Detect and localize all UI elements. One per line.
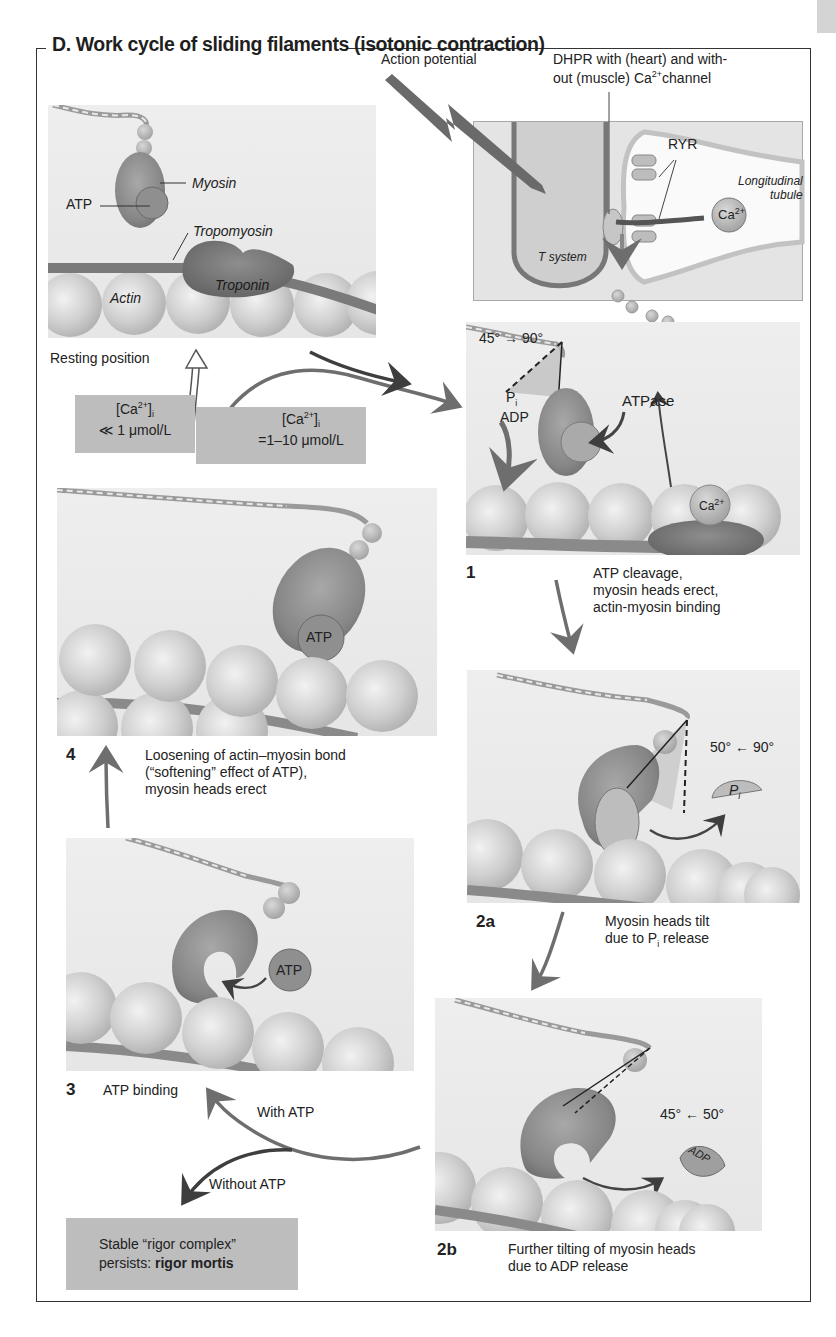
label-angle-1: 45° → 90° (479, 330, 543, 347)
label-without-atp: Without ATP (209, 1176, 286, 1193)
step-number-3: 3 (66, 1080, 75, 1100)
step4-illustration (57, 488, 437, 736)
caption-4-line3: myosin heads erect (145, 781, 346, 798)
rigor-line2: persists: rigor mortis (99, 1254, 298, 1273)
caption-1-line2: myosin heads erect, (593, 582, 721, 599)
caption-2b-line1: Further tilting of myosin heads (508, 1241, 696, 1258)
ca1-text: Ca (699, 499, 714, 513)
step-number-1: 1 (466, 563, 475, 583)
calcium-low-box: [Ca2+]i ≪ 1 μmol/L (75, 395, 195, 453)
step-number-2b: 2b (437, 1240, 457, 1260)
rigor-line2-bold: rigor mortis (155, 1255, 234, 1271)
panel-step-2a: 50° ← 90° Pi (467, 670, 800, 903)
label-adp-1: ADP (500, 409, 529, 426)
caption-step-2b: Further tilting of myosin heads due to A… (508, 1241, 696, 1275)
hollow-arrow-up-icon (186, 350, 207, 368)
caption-4-line2: (“softening” effect of ATP), (145, 764, 346, 781)
label-pi-1: Pi (506, 389, 517, 409)
cal-low-text: [Ca (116, 401, 138, 417)
actin-filament-step3 (66, 972, 394, 1071)
rigor-text: Stable “rigor complex” persists: rigor m… (66, 1218, 298, 1273)
label-angle-2b: 45° ← 50° (660, 1106, 724, 1123)
label-atp-3: ATP (276, 962, 302, 979)
panel-step-3: ATP (66, 838, 414, 1071)
cap2a-text-b: release (659, 930, 709, 946)
label-pi-2a: Pi (729, 782, 740, 802)
arrow-2a-to-2b (535, 912, 563, 985)
caption-1-line1: ATP cleavage, (593, 565, 721, 582)
cal-high-sup: 2+ (304, 410, 314, 420)
ca1-sup: 2+ (714, 497, 724, 507)
caption-step-1: ATP cleavage, myosin heads erect, actin-… (593, 565, 721, 615)
caption-step-2a: Myosin heads tilt due to Pi release (605, 913, 709, 949)
calcium-high-value: =1–10 μmol/L (196, 431, 366, 450)
rigor-line1: Stable “rigor complex” (99, 1235, 298, 1254)
cal-high-text: [Ca (282, 411, 304, 427)
calcium-high-conc: [Ca2+]i (196, 409, 366, 431)
pi2a-text: P (729, 782, 738, 798)
panel-step-4: ATP (57, 488, 437, 736)
actin-filament-step4 (57, 624, 418, 736)
caption-2a-line1: Myosin heads tilt (605, 913, 709, 930)
step3-illustration (66, 838, 414, 1071)
cal-low-sub: i (152, 409, 154, 419)
step2a-illustration (467, 670, 800, 903)
cal-low-sup: 2+ (138, 400, 148, 410)
myosin-head-open-shape (172, 910, 258, 1004)
step-number-4: 4 (66, 745, 75, 765)
caption-1-line3: actin-myosin binding (593, 599, 721, 616)
step-number-2a: 2a (476, 912, 495, 932)
lightning-icon (385, 74, 546, 194)
pi-text: P (506, 389, 515, 405)
rigor-mortis-box: Stable “rigor complex” persists: rigor m… (66, 1218, 298, 1290)
caption-2a-line2: due to Pi release (605, 930, 709, 950)
caption-4-line1: Loosening of actin–myosin bond (145, 747, 346, 764)
label-ca-1: Ca2+ (699, 497, 725, 513)
label-with-atp: With ATP (257, 1104, 314, 1121)
arrow-1-to-2a (556, 580, 572, 648)
arrow-3-to-4 (106, 752, 108, 828)
label-angle-2a: 50° ← 90° (710, 739, 774, 756)
panel-step-1: 45° → 90° Pi ADP ATPase Ca2+ (466, 322, 800, 555)
pi2a-sub: i (738, 791, 740, 801)
step1-illustration (466, 322, 800, 555)
panel-step-2b: 45° ← 50° ADP (435, 998, 762, 1231)
caption-step-3: ATP binding (103, 1082, 178, 1099)
rigor-line2-text: persists: (99, 1255, 155, 1271)
cal-high-sub: i (318, 419, 320, 429)
pi-sub: i (515, 398, 517, 408)
arrow-with-atp (210, 1093, 420, 1159)
calcium-high-box: [Ca2+]i =1–10 μmol/L (196, 407, 366, 464)
caption-step-4: Loosening of actin–myosin bond (“softeni… (145, 747, 346, 797)
calcium-low-value: ≪ 1 μmol/L (75, 421, 195, 440)
caption-2b-line2: due to ADP release (508, 1258, 696, 1275)
label-atp-4: ATP (306, 629, 332, 646)
label-atpase: ATPase (622, 392, 674, 410)
cap2a-text: due to P (605, 930, 657, 946)
calcium-low-conc: [Ca2+]i (75, 399, 195, 421)
